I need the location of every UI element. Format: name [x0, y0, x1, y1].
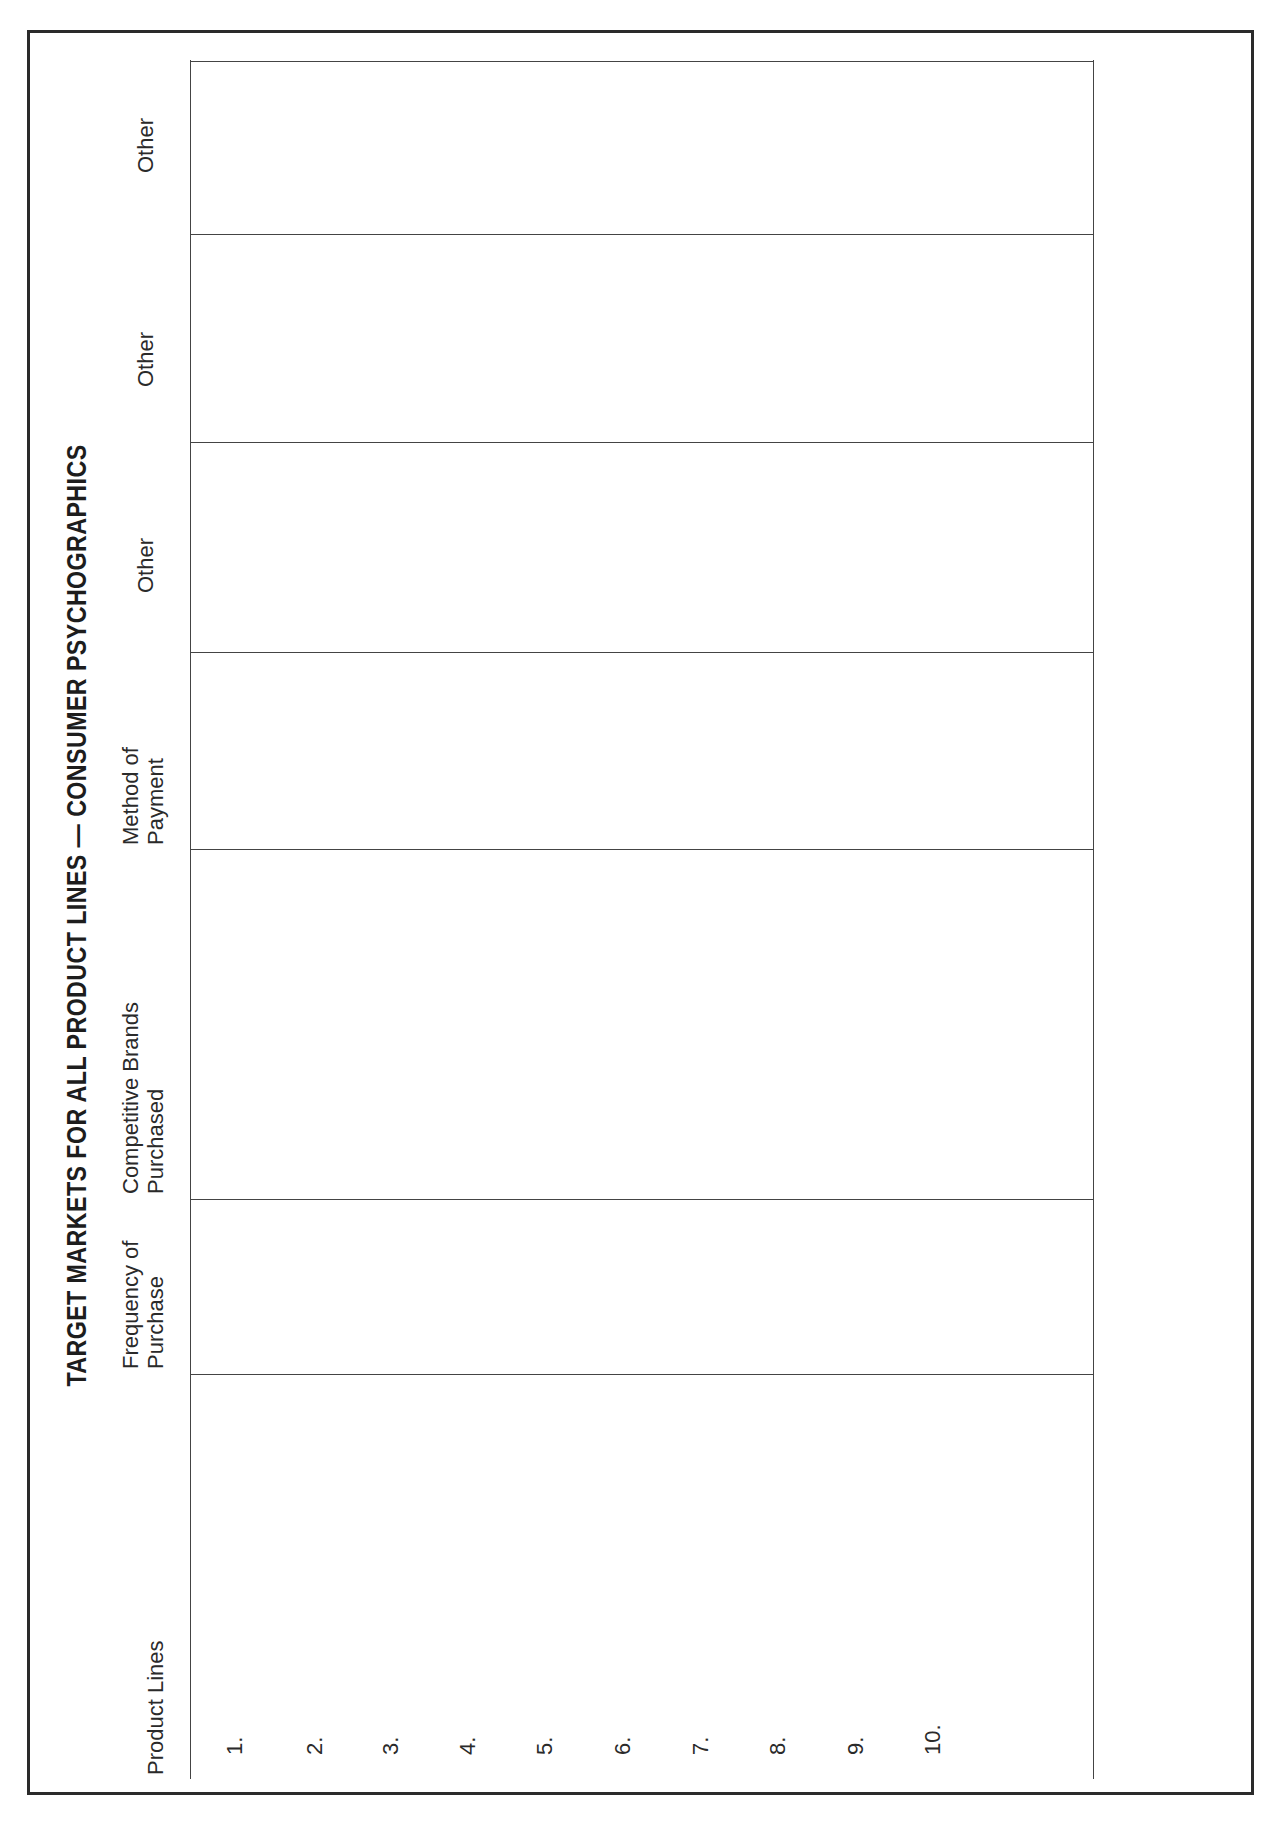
column-header-label: Purchase: [143, 1241, 168, 1369]
row-number-2: 2.: [302, 1737, 328, 1755]
column-header-label: Other: [133, 538, 158, 593]
column-header-label: Payment: [143, 747, 168, 845]
column-header-frequency-of-purchase: Frequency of Purchase: [118, 1241, 168, 1369]
column-header-label: Method of: [118, 747, 143, 845]
rotated-form-page: TARGET MARKETS FOR ALL PRODUCT LINES — C…: [0, 0, 1285, 1831]
column-header-label: Other: [133, 118, 158, 173]
column-header-label: Frequency of: [118, 1241, 143, 1369]
table-header-rule: [190, 60, 191, 1779]
row-number-7: 7.: [688, 1737, 714, 1755]
column-header-label: Competitive Brands: [118, 1002, 143, 1194]
column-header-product-lines: Product Lines: [143, 1640, 168, 1775]
column-divider: [190, 849, 1093, 850]
form-title: TARGET MARKETS FOR ALL PRODUCT LINES — C…: [62, 128, 93, 1703]
column-header-other-2: Other: [133, 332, 158, 387]
row-number-5: 5.: [532, 1737, 558, 1755]
column-header-label: Other: [133, 332, 158, 387]
column-header-label: Purchased: [143, 1002, 168, 1194]
row-number-8: 8.: [765, 1737, 791, 1755]
column-divider: [190, 1374, 1093, 1375]
row-number-3: 3.: [378, 1737, 404, 1755]
row-number-6: 6.: [610, 1737, 636, 1755]
row-number-4: 4.: [455, 1737, 481, 1755]
column-header-other-1: Other: [133, 538, 158, 593]
row-number-1: 1.: [222, 1737, 248, 1755]
column-header-competitive-brands: Competitive Brands Purchased: [118, 1002, 168, 1194]
column-divider: [190, 234, 1093, 235]
row-number-10: 10.: [920, 1724, 946, 1755]
row-number-9: 9.: [843, 1737, 869, 1755]
table-right-edge: [190, 61, 1093, 62]
column-header-other-3: Other: [133, 118, 158, 173]
table-bottom-rule: [1093, 60, 1094, 1779]
column-header-label: Product Lines: [143, 1640, 168, 1775]
column-divider: [190, 1199, 1093, 1200]
column-header-method-of-payment: Method of Payment: [118, 747, 168, 845]
page-border: [27, 30, 1254, 1795]
column-divider: [190, 652, 1093, 653]
column-divider: [190, 442, 1093, 443]
